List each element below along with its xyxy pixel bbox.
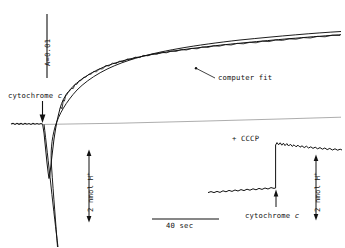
proton-scale-label-inset: 2 nmol H+ [313,172,322,212]
figure-canvas: A=0.01 cytochrome c computer fit 2 nmol … [0,0,345,248]
proton-scale-arrow-top-main [87,150,92,157]
cytochrome-arrow-head-main [40,115,46,124]
proton-scale-arrow-top-inset [314,155,319,162]
proton-scale-text-inset: 2 nmol H [313,176,322,212]
proton-scale-sup-inset: + [312,172,318,175]
cytochrome-arrow-head-inset [274,190,279,197]
proton-scale-sup-main: + [85,172,91,175]
cytochrome-c-text-inset: cytochrome c [245,211,299,220]
proton-scale-label-main: 2 nmol H+ [86,172,95,212]
data-trace-baseline [11,123,43,124]
baseline-drift-line [45,117,341,124]
cytochrome-c-label-inset: cytochrome c [245,212,299,219]
proton-scale-text-main: 2 nmol H [86,176,95,212]
proton-scale-arrow-bottom-inset [314,214,319,221]
computer-fit-label: computer fit [218,74,272,81]
cytochrome-c-text-main: cytochrome c [8,91,62,100]
proton-scale-arrow-bottom-main [87,216,92,223]
computer-fit-leader [197,69,216,79]
cytochrome-c-label-main: cytochrome c [8,92,62,99]
inset-trace-baseline [208,188,275,193]
time-scale-label: 40 sec [166,222,193,229]
inset-trace-plateau [276,143,342,151]
absorbance-scale-label: A=0.01 [44,39,51,66]
data-trace-main [43,35,341,179]
cccp-label: + CCCP [232,135,259,142]
computer-fit-leader-dot [195,67,197,69]
